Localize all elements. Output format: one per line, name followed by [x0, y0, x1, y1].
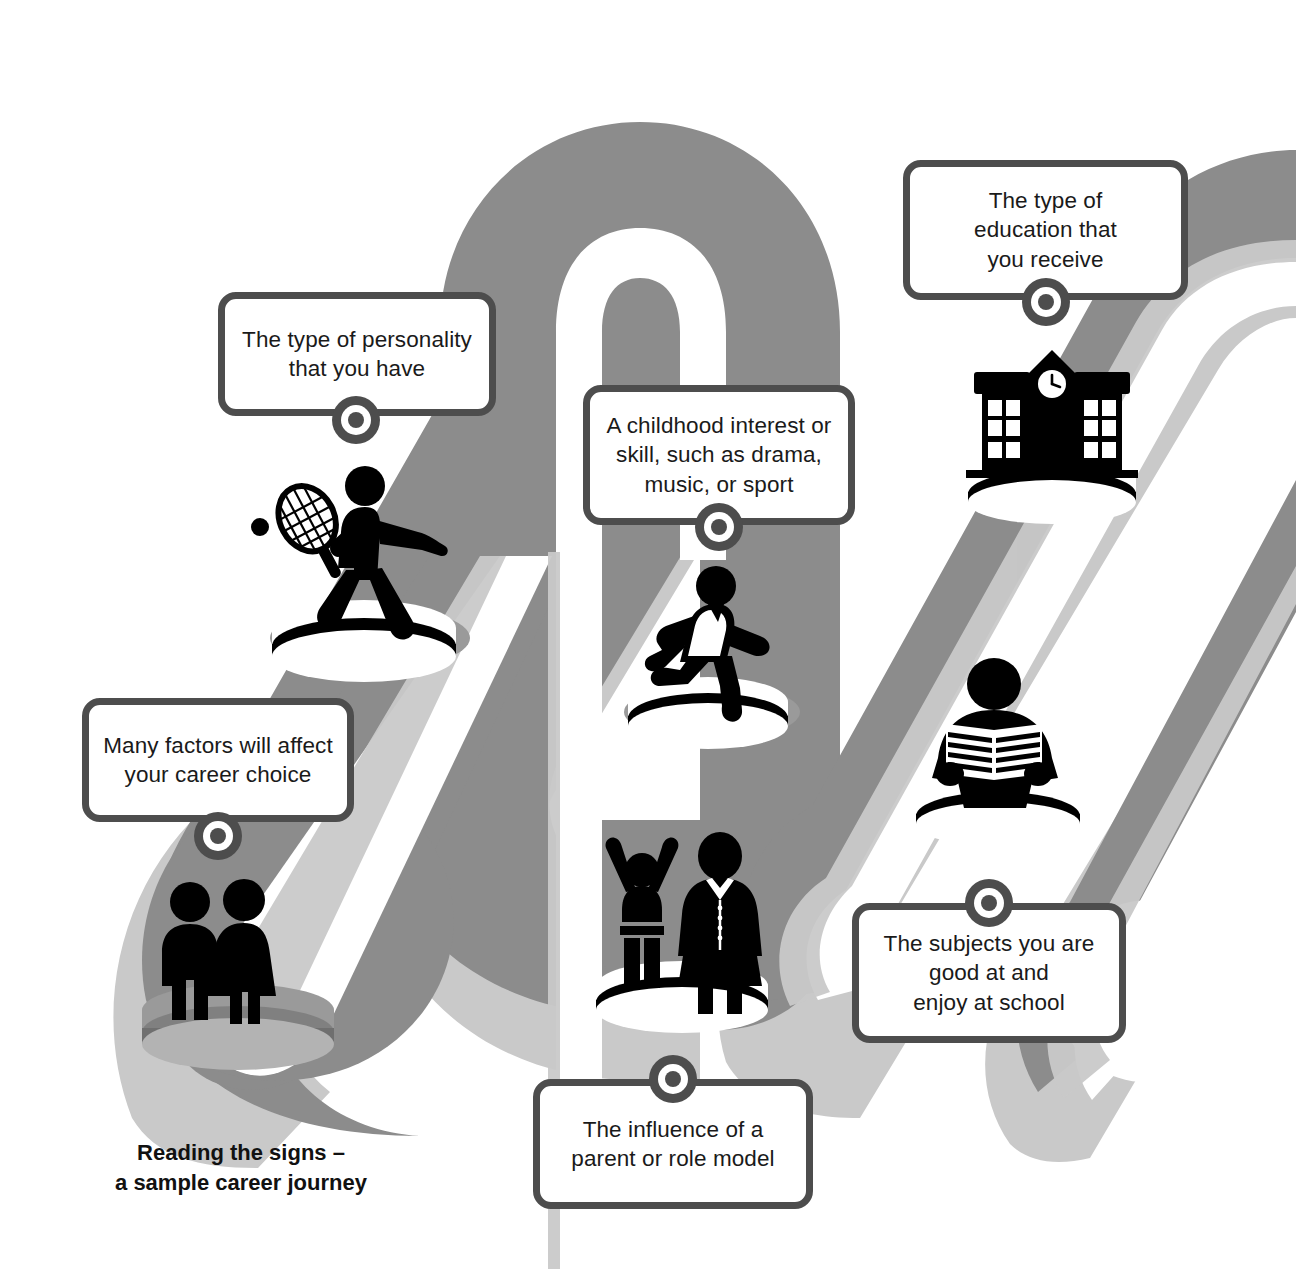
caption-title: Reading the signs – a sample career jour… — [96, 1138, 386, 1197]
school-building-icon — [966, 350, 1138, 478]
figure-school-building — [952, 344, 1152, 520]
marker-core — [1038, 294, 1054, 310]
marker-ring — [704, 512, 734, 542]
marker-core — [210, 828, 226, 844]
marker-childhood-interest[interactable] — [695, 503, 743, 551]
marker-many-factors[interactable] — [194, 812, 242, 860]
marker-core — [981, 895, 997, 911]
callout-education-text: The type of education that you receive — [974, 186, 1117, 274]
marker-ring — [341, 405, 371, 435]
marker-subjects[interactable] — [965, 879, 1013, 927]
callout-personality-text: The type of personality that you have — [242, 325, 472, 384]
podium-white — [628, 677, 788, 749]
person-reading-icon — [932, 658, 1058, 808]
figure-tennis-player — [242, 462, 472, 672]
callout-role-model-text: The influence of a parent or role model — [571, 1115, 774, 1174]
figure-reader — [902, 656, 1092, 846]
callout-many-factors[interactable]: Many factors will affect your career cho… — [82, 698, 354, 822]
marker-core — [665, 1071, 681, 1087]
marker-core — [711, 519, 727, 535]
marker-role-model[interactable] — [649, 1055, 697, 1103]
marker-ring — [974, 888, 1004, 918]
figure-runner — [608, 552, 808, 752]
callout-many-factors-text: Many factors will affect your career cho… — [103, 731, 333, 790]
podium-white — [272, 600, 456, 682]
callout-subjects-text: The subjects you are good at and enjoy a… — [884, 929, 1095, 1017]
marker-core — [348, 412, 364, 428]
marker-education[interactable] — [1022, 278, 1070, 326]
callout-childhood-interest-text: A childhood interest or skill, such as d… — [607, 411, 832, 499]
career-journey-infographic: Many factors will affect your career cho… — [0, 0, 1296, 1269]
figure-parent-child — [580, 822, 780, 1032]
marker-ring — [1031, 287, 1061, 317]
marker-ring — [203, 821, 233, 851]
figure-couple — [118, 868, 358, 1068]
marker-ring — [658, 1064, 688, 1094]
marker-personality[interactable] — [332, 396, 380, 444]
